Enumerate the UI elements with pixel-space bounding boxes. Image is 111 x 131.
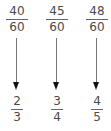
arrow-head <box>53 82 59 90</box>
fraction-after: 4 5 <box>80 95 111 124</box>
numerator: 2 <box>0 95 34 108</box>
numerator: 4 <box>80 95 111 108</box>
fraction-before: 45 60 <box>40 5 74 34</box>
column-1: 40 60 2 3 <box>0 0 34 131</box>
column-3: 48 60 4 5 <box>80 0 111 131</box>
fraction-after: 2 3 <box>0 95 34 124</box>
column-2: 45 60 3 4 <box>40 0 74 131</box>
fraction-after: 3 4 <box>40 95 74 124</box>
denominator: 3 <box>0 111 34 124</box>
fraction-before: 40 60 <box>0 5 34 34</box>
denominator: 60 <box>40 21 74 34</box>
fraction-before: 48 60 <box>80 5 111 34</box>
arrow-shaft <box>16 38 17 84</box>
numerator: 45 <box>40 5 74 18</box>
down-arrow-icon <box>56 38 58 90</box>
arrow-shaft <box>96 38 97 84</box>
numerator: 40 <box>0 5 34 18</box>
down-arrow-icon <box>16 38 18 90</box>
arrow-shaft <box>56 38 57 84</box>
numerator: 3 <box>40 95 74 108</box>
numerator: 48 <box>80 5 111 18</box>
arrow-head <box>93 82 99 90</box>
down-arrow-icon <box>96 38 98 90</box>
denominator: 5 <box>80 111 111 124</box>
denominator: 60 <box>80 21 111 34</box>
denominator: 60 <box>0 21 34 34</box>
arrow-head <box>13 82 19 90</box>
denominator: 4 <box>40 111 74 124</box>
